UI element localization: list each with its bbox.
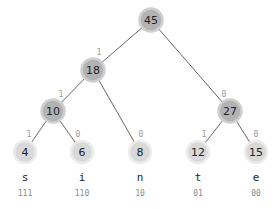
leaf-symbol: e (253, 171, 260, 184)
leaf-node: 8 (129, 141, 151, 163)
edge-bit-label: 0 (254, 130, 259, 139)
leaf-code: 01 (193, 189, 203, 198)
internal-node: 18 (82, 59, 105, 82)
leaf-code: 00 (251, 189, 261, 198)
edge-bit-label: 0 (139, 130, 144, 139)
node-weight: 6 (79, 146, 86, 159)
node-weight: 12 (191, 146, 205, 159)
leaf-node: 12 (187, 141, 209, 163)
node-weight: 27 (223, 105, 237, 118)
leaf-symbol: s (22, 171, 29, 184)
leaf-symbol: i (79, 171, 86, 184)
leaf-node: 6 (71, 141, 93, 163)
node-weight: 10 (46, 105, 60, 118)
tree-nodes: 451810274681215 (14, 9, 267, 164)
leaf-symbol: n (137, 171, 144, 184)
edge-bit-label: 1 (97, 48, 102, 57)
edge-bit-label: 1 (59, 90, 64, 99)
leaf-code: 111 (18, 189, 33, 198)
tree-edge (93, 70, 140, 152)
node-weight: 18 (86, 64, 100, 77)
internal-node: 10 (42, 100, 65, 123)
leaf-node: 4 (14, 141, 36, 163)
leaf-symbol: t (195, 171, 202, 184)
internal-node: 45 (140, 9, 163, 32)
internal-node: 27 (219, 100, 242, 123)
leaf-code: 10 (135, 189, 145, 198)
edge-bit-labels: 10101010 (27, 48, 259, 139)
edge-bit-label: 1 (27, 130, 32, 139)
edge-bit-label: 1 (202, 130, 207, 139)
node-weight: 15 (249, 146, 263, 159)
huffman-tree-diagram: 10101010 451810274681215 s111i110n10t01e… (0, 0, 276, 209)
edge-bit-label: 0 (76, 130, 81, 139)
symbol-code-table: s111i110n10t01e00 (18, 171, 261, 198)
leaf-node: 15 (245, 141, 267, 163)
leaf-code: 110 (75, 189, 90, 198)
node-weight: 8 (137, 146, 144, 159)
node-weight: 4 (22, 146, 29, 159)
edge-bit-label: 0 (222, 90, 227, 99)
node-weight: 45 (144, 14, 158, 27)
tree-edge (151, 20, 230, 111)
